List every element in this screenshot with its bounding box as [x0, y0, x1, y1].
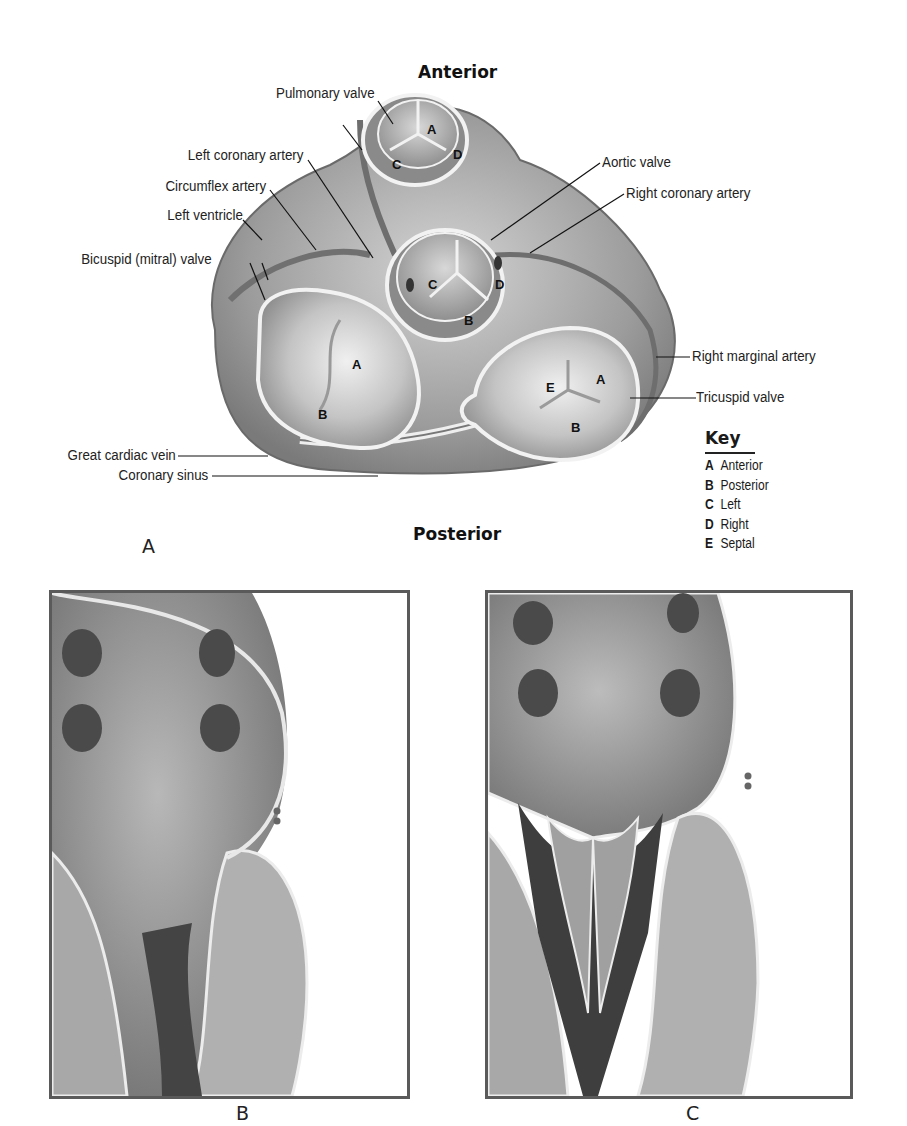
- aortic-cusp-b: B: [464, 313, 473, 328]
- key-item: AAnterior: [705, 457, 763, 473]
- pulmonary-cusp-a: A: [427, 122, 436, 137]
- pulmonary-cusp-d: D: [453, 147, 462, 162]
- anterior-label: Anterior: [418, 62, 497, 82]
- figure-c-frame: [485, 590, 853, 1099]
- posterior-label: Posterior: [413, 524, 501, 544]
- panel-letter-c: C: [686, 1102, 699, 1124]
- key-rule: [705, 452, 755, 454]
- mitral-cusp-b: B: [318, 407, 327, 422]
- tricuspid-cusp-b: B: [571, 420, 580, 435]
- label-coronary-sinus: Coronary sinus: [118, 466, 208, 484]
- key-item: BPosterior: [705, 477, 769, 493]
- mitral-cusp-a: A: [352, 357, 361, 372]
- label-bicuspid-valve: Bicuspid (mitral) valve: [82, 250, 212, 268]
- label-left-coronary-artery: Left coronary artery: [187, 146, 303, 164]
- label-aortic-valve: Aortic valve: [602, 153, 671, 171]
- panel-letter-a: A: [142, 535, 155, 557]
- semilunar-valve-open-illustration: [52, 593, 407, 1096]
- key-title: Key: [705, 428, 741, 448]
- semilunar-valve-closed-illustration: [488, 593, 850, 1096]
- label-tricuspid-valve: Tricuspid valve: [696, 388, 784, 406]
- aortic-cusp-c: C: [428, 277, 437, 292]
- pulmonary-cusp-c: C: [392, 157, 401, 172]
- tricuspid-cusp-a: A: [596, 372, 605, 387]
- key-item: DRight: [705, 516, 749, 532]
- label-right-marginal-artery: Right marginal artery: [692, 347, 816, 365]
- tricuspid-cusp-e: E: [546, 380, 555, 395]
- figure-b-frame: [49, 590, 410, 1099]
- label-pulmonary-valve: Pulmonary valve: [276, 84, 375, 102]
- label-circumflex-artery: Circumflex artery: [165, 177, 266, 195]
- panel-letter-b: B: [236, 1102, 249, 1124]
- label-left-ventricle: Left ventricle: [167, 206, 243, 224]
- key-item: ESeptal: [705, 535, 755, 551]
- aortic-cusp-d: D: [495, 277, 504, 292]
- label-great-cardiac-vein: Great cardiac vein: [68, 446, 176, 464]
- label-right-coronary-artery: Right coronary artery: [626, 184, 750, 202]
- key-item: CLeft: [705, 496, 741, 512]
